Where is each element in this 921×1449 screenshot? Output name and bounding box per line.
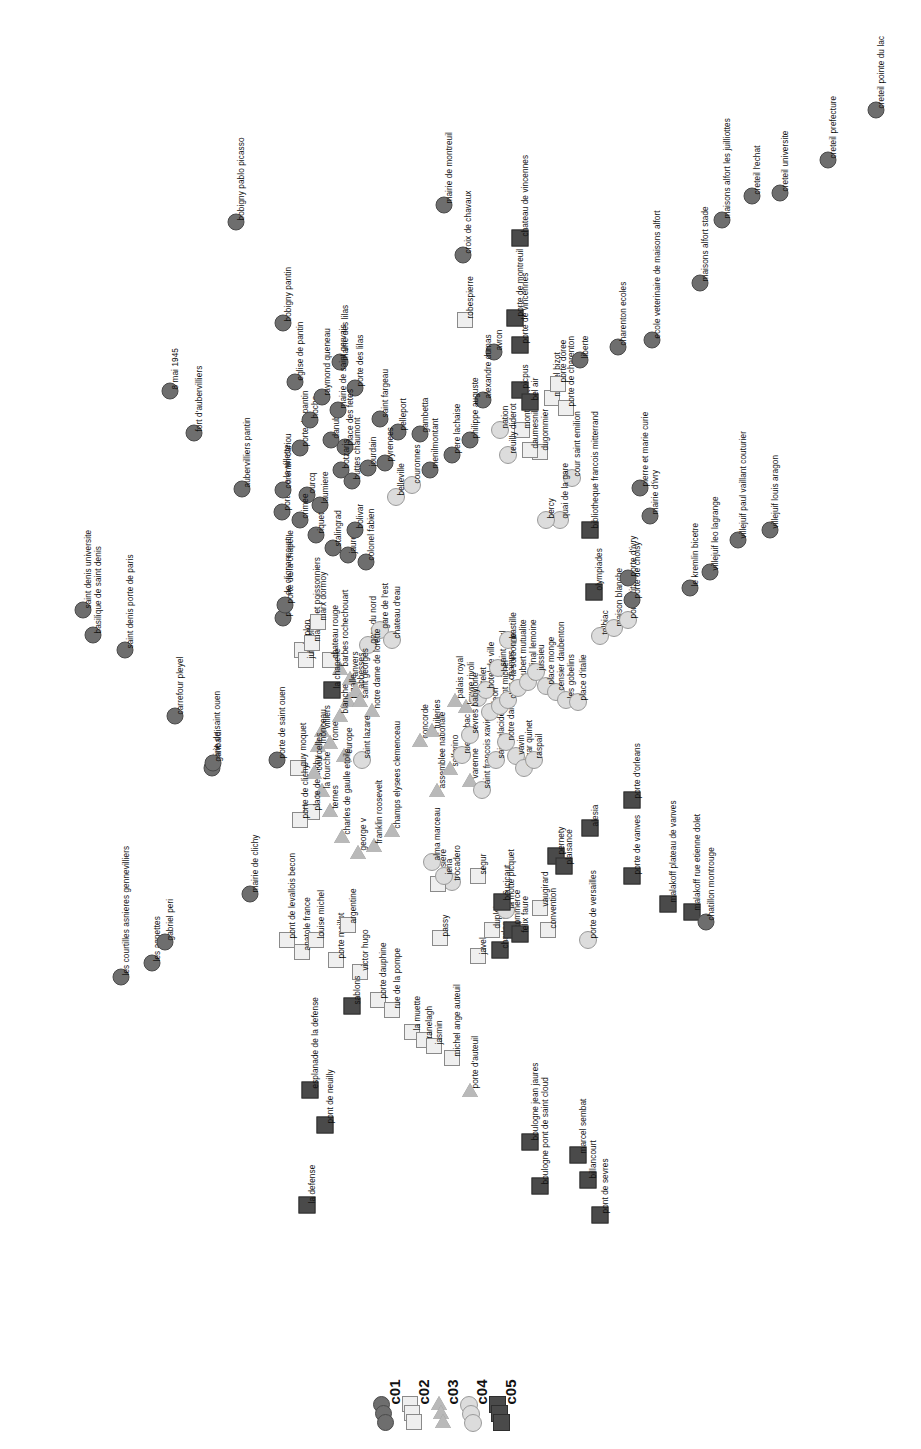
station-label: botzaris bbox=[342, 439, 351, 468]
station-label: pont de neuilly bbox=[326, 1069, 335, 1123]
station-label: porte d'orleans bbox=[633, 743, 642, 798]
station-label: porte de vincennes bbox=[521, 273, 530, 344]
station-label: alexandre dumas bbox=[484, 334, 493, 398]
station-label: bolivar bbox=[356, 504, 365, 529]
station-label: billancourt bbox=[589, 1140, 598, 1178]
station-label: liberte bbox=[581, 336, 590, 359]
station-label: assemblee nationale bbox=[438, 711, 447, 788]
station-label: marx dormoy bbox=[319, 572, 328, 621]
station-label: ourcq bbox=[308, 473, 317, 494]
station-label: daumesnil bbox=[531, 410, 540, 448]
station-label: mairie d'ivry bbox=[651, 470, 660, 515]
legend-key-open-light-square-icon bbox=[402, 1396, 428, 1430]
station-label: malakoff rue etienne dolet bbox=[693, 814, 702, 911]
station-label: marcel sembat bbox=[579, 1099, 588, 1154]
station-label: convention bbox=[549, 888, 558, 929]
station-label: laumiere bbox=[321, 471, 330, 503]
station-label: garibaldi bbox=[214, 730, 223, 762]
station-label: creteil l'echat bbox=[753, 145, 762, 194]
legend-symbol-icon bbox=[435, 1414, 451, 1428]
station-label: notre dame de lorette bbox=[373, 629, 382, 709]
station-label: sablons bbox=[353, 976, 362, 1005]
station-label: place monge bbox=[547, 637, 556, 685]
station-label: crimee bbox=[301, 493, 310, 518]
station-label: belleville bbox=[397, 463, 406, 495]
station-label: riquet bbox=[317, 512, 326, 533]
station-label: plaisance bbox=[565, 829, 574, 865]
station-label: bobigny pantin bbox=[284, 267, 293, 322]
station-label: villejuif paul vaillant couturier bbox=[739, 431, 748, 539]
station-label: nation bbox=[501, 406, 510, 429]
station-label: villejuif louis aragon bbox=[771, 455, 780, 529]
station-label: esplanade de la defense bbox=[311, 997, 320, 1089]
station-label: jasmin bbox=[435, 1020, 444, 1044]
station-label: saint lazare bbox=[363, 715, 372, 758]
station-label: victor hugo bbox=[361, 929, 370, 970]
station-label: michel ange auteuil bbox=[453, 984, 462, 1056]
station-label: pyrenees bbox=[386, 427, 395, 461]
station-label: chatillon montrouge bbox=[707, 847, 716, 920]
station-label: varenne bbox=[471, 748, 480, 778]
station-label: chateau de vincennes bbox=[521, 155, 530, 237]
station-label: porte de clichy bbox=[301, 764, 310, 818]
legend-key-light-circle-icon bbox=[460, 1396, 486, 1430]
station-label: malakoff plateau de vanves bbox=[669, 800, 678, 902]
station-label: porte de la chapelle bbox=[286, 530, 295, 603]
station-label: fort d'aubervilliers bbox=[195, 366, 204, 432]
station-label: saint denis porte de paris bbox=[126, 554, 135, 648]
station-label: olympiades bbox=[595, 548, 604, 590]
station-label: alma marceau bbox=[433, 807, 442, 860]
station-label: 8 mai 1945 bbox=[171, 348, 180, 390]
station-label: chateau d'eau bbox=[393, 586, 402, 639]
station-label: ecole veterinaire de maisons alfort bbox=[653, 210, 662, 338]
station-label: porte dauphine bbox=[379, 942, 388, 998]
station-label: maisons alfort les juilliottes bbox=[723, 118, 732, 218]
legend-key-grey-triangle-icon bbox=[431, 1396, 457, 1430]
station-label: passy bbox=[441, 915, 450, 937]
station-label: palais royal bbox=[456, 656, 465, 699]
scatter-plot-area: bobigny pablo picassobobigny pantineglis… bbox=[0, 0, 921, 1449]
station-label: stalingrad bbox=[334, 510, 343, 547]
station-label: sevres babylone bbox=[471, 672, 480, 733]
station-label: cour saint emilion bbox=[573, 411, 582, 477]
legend-symbol-icon bbox=[406, 1414, 422, 1430]
station-label: la defense bbox=[308, 1165, 317, 1204]
station-label: felix faure bbox=[521, 896, 530, 933]
station-label: colonel fabien bbox=[367, 509, 376, 561]
station-label: quai de la gare bbox=[561, 463, 570, 519]
station-label: robespierre bbox=[466, 276, 475, 319]
station-label: carrefour pleyel bbox=[176, 656, 185, 714]
station-label: louise michel bbox=[317, 890, 326, 939]
station-label: guy moquet bbox=[299, 723, 308, 767]
station-label: creteil prefecture bbox=[829, 96, 838, 159]
station-label: alesia bbox=[591, 805, 600, 827]
station-label: buttes chaumont bbox=[353, 417, 362, 479]
station-label: courcelles bbox=[315, 733, 324, 771]
station-label: raspail bbox=[535, 734, 544, 759]
station-label: corentin cariou bbox=[284, 433, 293, 488]
station-label: segur bbox=[479, 854, 488, 875]
legend-symbol-icon bbox=[377, 1414, 394, 1431]
station-label: boulogne pont de saint cloud bbox=[541, 1077, 550, 1185]
legend-item-c04[interactable]: c04 bbox=[459, 1352, 486, 1447]
station-label: mairie de saint gervais bbox=[339, 324, 348, 408]
station-label: pierre et marie curie bbox=[641, 412, 650, 487]
legend-item-c05[interactable]: c05 bbox=[488, 1352, 515, 1447]
station-label: trocadero bbox=[453, 845, 462, 881]
station-label: mairie de clichy bbox=[251, 834, 260, 892]
legend-item-c03[interactable]: c03 bbox=[430, 1352, 457, 1447]
legend-item-c01[interactable]: c01 bbox=[372, 1352, 399, 1447]
station-label: saint denis universite bbox=[84, 530, 93, 609]
station-label: ranelagh bbox=[425, 1006, 434, 1039]
station-label: bel air bbox=[531, 378, 540, 401]
station-label: philippe auguste bbox=[471, 377, 480, 438]
station-label: boulogne jean jaures bbox=[531, 1062, 540, 1140]
station-label: gambetta bbox=[421, 398, 430, 433]
station-label: le kremlin bicetre bbox=[691, 523, 700, 587]
legend-item-c02[interactable]: c02 bbox=[401, 1352, 428, 1447]
station-label: pelleport bbox=[399, 398, 408, 430]
station-label: les courtilles asnieres gennevilliers bbox=[122, 846, 131, 976]
station-label: charenton ecoles bbox=[619, 282, 628, 346]
station-label: porte d'auteuil bbox=[471, 1036, 480, 1089]
station-label: champs elysees clemenceau bbox=[393, 721, 402, 829]
